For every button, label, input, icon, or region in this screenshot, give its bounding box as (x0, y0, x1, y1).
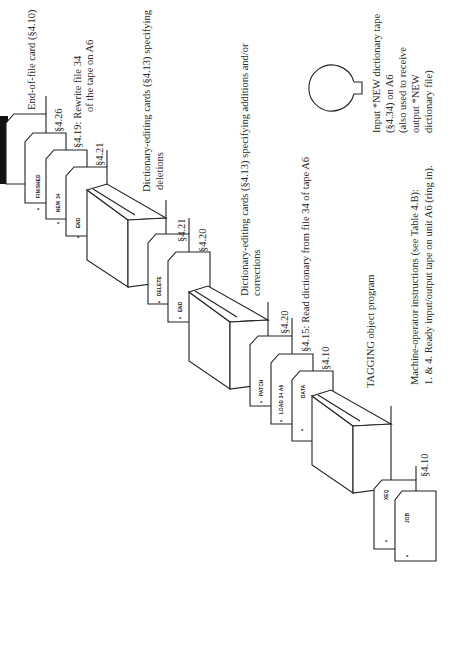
card-label: LOAD 34 A6 (279, 384, 284, 414)
tape-label: Input *NEW dictionary tape (§4.34) on A6… (371, 14, 435, 133)
tape-reel-icon (309, 65, 362, 111)
deck-additions-label-2: corrections (251, 249, 262, 296)
deck-deletions-label: Dictionary-editing cards (§4.13) specify… (141, 9, 153, 192)
deck-tagging-label: TAGGING object program (365, 275, 376, 388)
machine-operator-line1: Machine-operator instructions (see Table… (409, 189, 421, 385)
card-label: FINISHED (36, 174, 41, 198)
svg-text:(§4.34) on A6: (§4.34) on A6 (384, 74, 396, 133)
card-label: END (178, 301, 183, 312)
deck-deletions-label-2: deletions (154, 152, 165, 190)
ref-load: §4.15: Read dictionary from file 34 of t… (300, 157, 311, 352)
card-label: JOB (405, 512, 410, 523)
card-label: DATA (301, 384, 306, 398)
card-label: XEQ (384, 489, 389, 500)
svg-text:Input *NEW dictionary tape: Input *NEW dictionary tape (371, 14, 382, 133)
svg-text:output *NEW: output *NEW (410, 74, 421, 133)
ref-new34: §4.19: Rewrite file 34 (72, 55, 83, 148)
ref-delete: §4.21 (176, 218, 187, 242)
svg-text:dictionary file): dictionary file) (423, 70, 435, 133)
svg-text:*: * (37, 207, 40, 213)
ref-new34-2: of the tape on A6 (84, 40, 95, 112)
svg-text:(also used to receive: (also used to receive (397, 47, 409, 133)
card-label: END (76, 217, 81, 228)
ref-finished: §4.26 (53, 108, 64, 132)
eof-label: End-of-file card (§4.10) (26, 9, 38, 110)
deck-tagging (312, 390, 391, 493)
ref-end2: §4.20 (197, 228, 208, 252)
card-label: DELETE (157, 276, 162, 296)
ref-data: §4.10 (320, 346, 331, 370)
card-label: PATCH (259, 379, 264, 396)
ref-patch: §4.20 (279, 310, 290, 334)
card-deck-diagram: FINISHED NEW 34 END DELETE END PATCH LOA… (0, 0, 453, 648)
ref-end1: §4.21 (94, 142, 105, 166)
svg-text:*: * (57, 221, 60, 227)
card-label: NEW 34 (56, 193, 61, 212)
machine-operator-line2: 1. & 4. Ready input/output tape on unit … (423, 165, 435, 385)
ref-job: §4.10 (419, 453, 430, 477)
card-job: JOB (395, 491, 436, 561)
deck-additions-label: Dictionary-editing cards (§4.13) specify… (239, 43, 251, 296)
